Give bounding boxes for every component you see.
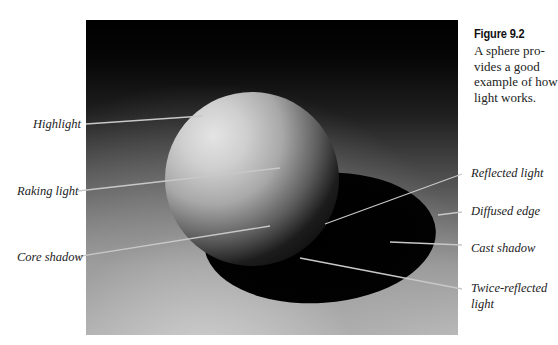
label-raking-light: Raking light [17,184,78,198]
label-reflected-light: Reflected light [471,166,544,180]
label-core-shadow: Core shadow [17,250,83,264]
label-cast-shadow: Cast shadow [471,241,535,255]
caption-line: example of how [474,74,558,90]
figure-number: Figure 9.2 [474,26,545,42]
label-highlight: Highlight [33,117,81,131]
caption-line: A sphere pro- [474,43,558,59]
label-twice-reflected-light-line1: Twice-reflected [471,281,547,295]
caption-line: vides a good [474,59,558,75]
caption-line: light works. [474,90,558,106]
figure-caption: Figure 9.2 A sphere pro- vides a good ex… [474,26,558,105]
label-diffused-edge: Diffused edge [471,204,540,218]
sphere-lighting-render [86,20,458,335]
sphere-shape [165,92,339,266]
caption-text: A sphere pro- vides a good example of ho… [474,43,558,105]
label-twice-reflected-light-line2: light [471,297,494,311]
figure-9-2: Highlight Raking light Core shadow Refle… [0,0,558,345]
